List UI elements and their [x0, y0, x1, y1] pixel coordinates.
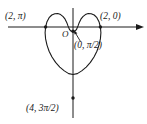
marker-bottom-point [71, 96, 74, 99]
marker-right-point [99, 25, 102, 28]
label-right-point: (2, 0) [100, 12, 121, 22]
marker-left-point [44, 25, 47, 28]
x-axis [8, 24, 144, 30]
label-bottom-point: (4, 3π/2) [26, 104, 59, 114]
origin-label: O [62, 30, 69, 39]
label-cusp-point: (0, π/2) [74, 41, 102, 51]
polar-cardioid-figure: (2, π) (2, 0) O (0, π/2) (4, 3π/2) [0, 0, 147, 124]
label-left-point: (2, π) [5, 12, 26, 22]
